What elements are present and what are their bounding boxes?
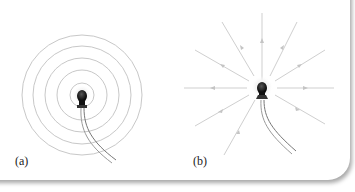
figure-canvas [0, 0, 355, 192]
panel-b-label: (b) [193, 154, 207, 169]
panel-a-label: (a) [15, 154, 28, 169]
panel-b-wires [261, 100, 296, 154]
panel-b-bulb-icon [251, 76, 273, 99]
